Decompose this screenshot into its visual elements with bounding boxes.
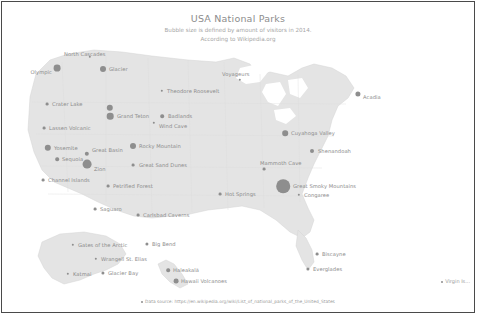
park-label: Carlsbad Caverns (143, 212, 189, 218)
park-label: Great Basin (92, 147, 123, 153)
park-bubble[interactable] (130, 143, 136, 149)
chart-frame: USA National Parks Bubble size is define… (1, 1, 475, 313)
data-source-label: Data source: https://en.wikipedia.org/wi… (145, 299, 335, 304)
park-label: Hawaii Volcanoes (181, 278, 227, 284)
park-label: Gates of the Arctic (78, 242, 127, 248)
park-label: Hot Springs (225, 191, 256, 197)
park-bubble[interactable] (310, 149, 314, 153)
park-label: Wind Cave (159, 123, 187, 129)
park-label: Petrified Forest (113, 183, 153, 189)
park-bubble[interactable] (55, 157, 59, 161)
park-label: Congaree (304, 192, 329, 198)
virgin-islands-note: Virgin Is... (441, 278, 470, 284)
map-canvas: USA National Parks Bubble size is define… (2, 2, 474, 312)
park-bubble[interactable] (54, 65, 61, 72)
source-bullet-icon (141, 301, 143, 303)
park-label: Channel Islands (48, 177, 90, 183)
park-label: North Cascades (64, 51, 106, 57)
park-label: Saguaro (100, 206, 122, 212)
park-label: Great Sand Dunes (139, 162, 187, 168)
park-label: Yosemite (54, 145, 78, 151)
park-bubble[interactable] (83, 160, 92, 169)
park-label: Haleakalā (173, 267, 199, 273)
park-label: Voyageurs (222, 71, 250, 77)
park-label: Sequoia (62, 156, 83, 162)
virgin-islands-label: Virgin Is... (445, 278, 470, 284)
park-bubble[interactable] (100, 66, 106, 72)
park-label: Badlands (168, 113, 192, 119)
park-bubble[interactable] (160, 114, 164, 118)
park-label: Katmai (73, 271, 92, 277)
park-bubble[interactable] (46, 103, 49, 106)
park-label: Cuyahoga Valley (291, 130, 335, 136)
park-label: Glacier Bay (108, 270, 138, 276)
park-label: Olympic (30, 69, 52, 75)
park-bubble[interactable] (42, 179, 45, 182)
park-label: Everglades (313, 266, 342, 272)
park-label: Grand Teton (117, 113, 149, 119)
park-bubble[interactable] (107, 185, 110, 188)
park-label: Lassen Volcanic (49, 125, 91, 131)
park-label: Acadia (363, 94, 381, 100)
park-bubble[interactable] (282, 130, 288, 136)
park-label: Theodore Roosevelt (167, 88, 219, 94)
park-bubble[interactable] (132, 164, 135, 167)
park-bubble[interactable] (174, 279, 179, 284)
park-label: Wrangell St. Elias (101, 256, 147, 262)
park-label: Shenandoah (318, 148, 351, 154)
park-bubble[interactable] (43, 127, 46, 130)
park-bubble[interactable] (137, 214, 140, 217)
park-label: Big Bend (152, 241, 176, 247)
park-bubble[interactable] (316, 253, 319, 256)
park-bubble[interactable] (166, 268, 170, 272)
park-bubble[interactable] (276, 179, 290, 193)
park-label: Glacier (109, 66, 128, 72)
data-source-footer: Data source: https://en.wikipedia.org/wi… (2, 299, 474, 304)
park-bubble[interactable] (94, 208, 97, 211)
park-bubble[interactable] (219, 193, 222, 196)
bullet-dot-icon (441, 281, 443, 283)
park-label: Rocky Mountain (139, 143, 181, 149)
park-label: Biscayne (322, 251, 346, 257)
park-label: Zion (94, 166, 106, 172)
park-bubble[interactable] (263, 168, 266, 171)
park-label: Crater Lake (52, 101, 83, 107)
park-bubble[interactable] (107, 113, 114, 120)
park-label: Mammoth Cave (260, 160, 302, 166)
park-label: Great Smoky Mountains (293, 183, 356, 189)
